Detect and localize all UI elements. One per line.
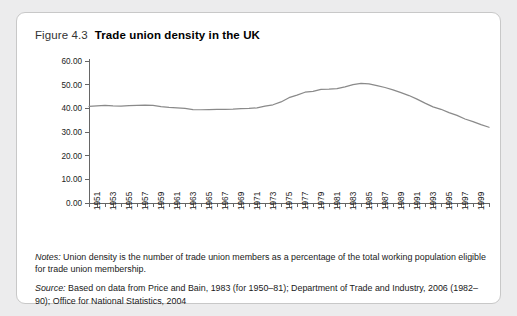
- source-text: Based on data from Price and Bain, 1983 …: [35, 283, 478, 305]
- x-tick-label: 1967: [221, 191, 230, 210]
- x-tick-label: 1999: [477, 191, 486, 210]
- x-tick-label: 1973: [269, 191, 278, 210]
- y-tick-label: 30.00: [62, 128, 83, 137]
- y-tick-label: 10.00: [62, 175, 83, 184]
- chart-plot: 0.0010.0020.0030.0040.0050.0060.00195119…: [27, 51, 492, 247]
- source-label: Source:: [35, 283, 66, 293]
- y-tick-label: 20.00: [62, 152, 83, 161]
- x-tick-label: 1953: [109, 191, 118, 210]
- x-tick-label: 1991: [413, 191, 422, 210]
- x-tick-label: 1985: [365, 191, 374, 210]
- x-tick-label: 1963: [189, 191, 198, 210]
- line-chart-svg: 0.0010.0020.0030.0040.0050.0060.00195119…: [27, 51, 492, 247]
- x-tick-label: 1997: [461, 191, 470, 210]
- data-series-line: [89, 83, 489, 127]
- x-tick-label: 1981: [333, 191, 342, 210]
- source-paragraph: Source: Based on data from Price and Bai…: [35, 282, 487, 306]
- x-tick-label: 1959: [157, 191, 166, 210]
- x-tick-label: 1987: [381, 191, 390, 210]
- x-tick-label: 1989: [397, 191, 406, 210]
- figure-number: Figure 4.3: [35, 29, 88, 41]
- x-tick-label: 1971: [253, 191, 262, 210]
- x-tick-label: 1951: [93, 191, 102, 210]
- notes-paragraph: Notes: Union density is the number of tr…: [35, 251, 487, 275]
- x-tick-label: 1955: [125, 191, 134, 210]
- x-tick-label: 1957: [141, 191, 150, 210]
- figure-title: Trade union density in the UK: [95, 29, 260, 41]
- y-tick-label: 0.00: [66, 199, 82, 208]
- x-tick-label: 1993: [429, 191, 438, 210]
- x-tick-label: 1965: [205, 191, 214, 210]
- x-tick-label: 1979: [317, 191, 326, 210]
- figure-notes: Notes: Union density is the number of tr…: [35, 251, 487, 307]
- x-tick-label: 1961: [173, 191, 182, 210]
- x-tick-label: 1983: [349, 191, 358, 210]
- y-tick-label: 50.00: [62, 81, 83, 90]
- notes-text: Union density is the number of trade uni…: [35, 252, 486, 274]
- notes-label: Notes:: [35, 252, 61, 262]
- x-tick-label: 1977: [301, 191, 310, 210]
- x-tick-label: 1969: [237, 191, 246, 210]
- figure-card: Figure 4.3 Trade union density in the UK…: [16, 12, 501, 304]
- y-tick-label: 40.00: [62, 104, 83, 113]
- x-tick-label: 1975: [285, 191, 294, 210]
- y-tick-label: 60.00: [62, 57, 83, 66]
- x-tick-label: 1995: [445, 191, 454, 210]
- figure-header: Figure 4.3 Trade union density in the UK: [35, 29, 260, 41]
